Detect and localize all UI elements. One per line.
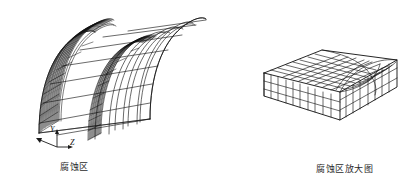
- axis-label-z: Z: [70, 138, 74, 147]
- caption-corrosion-zone-enlarged: 腐蚀区放大图: [316, 162, 373, 175]
- finite-element-figure: [0, 0, 407, 187]
- axis-label-y: Y: [50, 125, 54, 134]
- corrosion-zone-inner-arch: [88, 35, 156, 140]
- axes-triad: [36, 129, 73, 149]
- tunnel-model: [39, 18, 206, 140]
- block-left-face-mesh: [264, 50, 322, 82]
- corrosion-block-model: [264, 50, 397, 120]
- tunnel-ring-set: [95, 22, 193, 139]
- caption-corrosion-zone: 腐蚀区: [60, 160, 89, 173]
